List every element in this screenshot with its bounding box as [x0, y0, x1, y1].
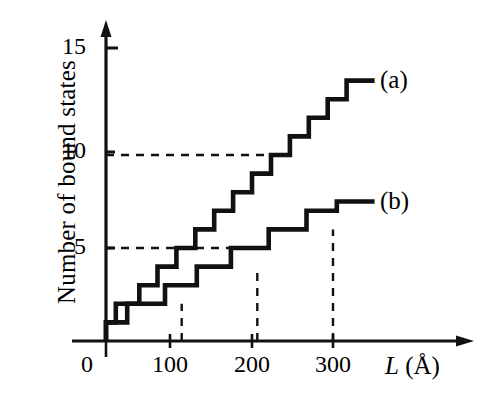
x-axis-arrowhead — [456, 336, 474, 347]
curve-label-a: (a) — [380, 66, 408, 94]
y-axis-arrowhead — [101, 20, 112, 37]
y-tick-label-15: 15 — [30, 33, 86, 60]
y-tick-label-5: 5 — [30, 233, 86, 260]
y-tick-label-10: 10 — [30, 137, 86, 164]
x-tick-label-100: 100 — [135, 351, 205, 378]
curve-label-b: (b) — [380, 187, 409, 215]
bound-states-chart-figure: Number of bound states 15 10 5 0 100 200… — [0, 0, 489, 404]
guide-lines — [106, 155, 333, 341]
axis-lines — [72, 20, 474, 347]
series-curve-b — [106, 202, 375, 342]
y-axis-title: Number of bound states — [53, 27, 81, 337]
x-axis-unit: (Å) — [405, 352, 440, 379]
y-axis-ticks — [106, 48, 118, 248]
x-tick-label-200: 200 — [217, 351, 287, 378]
x-tick-label-300: 300 — [298, 351, 368, 378]
x-tick-label-0: 0 — [52, 351, 122, 378]
x-axis-title: L (Å) — [385, 352, 440, 380]
x-axis-symbol: L — [385, 352, 399, 379]
